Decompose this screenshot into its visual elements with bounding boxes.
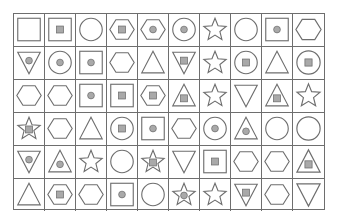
grid-cell-r6-c7 [200,179,231,211]
grid-cell-r6-c10 [293,179,324,211]
star-icon [200,179,230,211]
triangle-up-icon [262,47,292,79]
grid-cell-r3-c9 [262,80,293,113]
star-icon [200,80,230,112]
grid-cell-r1-c4 [107,14,138,47]
hexagon-icon [293,14,324,46]
grid-cell-r3-c6 [169,80,200,113]
grid-cell-r4-c4 [107,113,138,146]
grid-cell-r5-c1 [14,146,45,179]
hexagon-icon [14,80,44,112]
star-icon [200,47,230,79]
hexagon-with-dot-icon [138,14,168,46]
circle-icon [138,179,168,211]
grid-cell-r4-c1 [14,113,45,146]
star-with-square-icon [14,113,44,145]
triangle-down-icon [169,146,199,178]
circle-icon [107,146,137,178]
star-with-dot-icon [169,179,199,211]
grid-cell-r5-c5 [138,146,169,179]
hexagon-icon [231,146,261,178]
grid-cell-r3-c8 [231,80,262,113]
grid-cell-r1-c10 [293,14,324,47]
grid-cell-r1-c5 [138,14,169,47]
square-icon [14,14,44,46]
star-icon [76,146,106,178]
grid-cell-r5-c4 [107,146,138,179]
grid-cell-r1-c7 [200,14,231,47]
grid-cell-r6-c1 [14,179,45,211]
grid-cell-r4-c10 [293,113,324,146]
grid-cell-r6-c5 [138,179,169,211]
grid-cell-r5-c8 [231,146,262,179]
hexagon-icon [45,80,75,112]
grid-cell-r2-c7 [200,47,231,80]
grid-cell-r6-c3 [76,179,107,211]
grid-cell-r6-c4 [107,179,138,211]
circle-with-square-icon [107,113,137,145]
triangle-down-with-dot-icon [14,47,44,79]
square-with-square-icon [107,80,137,112]
hexagon-with-square-icon [107,14,137,46]
grid-cell-r3-c3 [76,80,107,113]
triangle-up-with-square-icon [293,146,324,178]
square-with-square-icon [200,146,230,178]
star-with-square-icon [138,146,168,178]
grid-cell-r4-c7 [200,113,231,146]
grid-cell-r6-c9 [262,179,293,211]
grid-cell-r4-c5 [138,113,169,146]
grid-cell-r3-c2 [45,80,76,113]
grid-cell-r2-c4 [107,47,138,80]
grid-cell-r5-c3 [76,146,107,179]
square-with-dot-icon [262,14,292,46]
triangle-up-icon [14,179,44,211]
triangle-down-with-square-icon [231,179,261,211]
grid-cell-r6-c2 [45,179,76,211]
grid-cell-r1-c6 [169,14,200,47]
grid-cell-r5-c7 [200,146,231,179]
triangle-down-icon [293,179,324,211]
grid-cell-r3-c7 [200,80,231,113]
hexagon-with-square-icon [138,80,168,112]
square-with-dot-icon [138,113,168,145]
grid-cell-r4-c9 [262,113,293,146]
hexagon-icon [169,113,199,145]
square-with-dot-icon [76,80,106,112]
grid-cell-r6-c8 [231,179,262,211]
circle-icon [76,14,106,46]
grid-cell-r2-c3 [76,47,107,80]
star-icon [293,80,324,112]
grid-cell-r2-c2 [45,47,76,80]
grid-cell-r3-c4 [107,80,138,113]
hexagon-icon [76,179,106,211]
hexagon-with-square-icon [45,179,75,211]
circle-with-dot-icon [45,47,75,79]
grid-cell-r1-c9 [262,14,293,47]
hexagon-icon [262,146,292,178]
grid-cell-r3-c10 [293,80,324,113]
circle-with-dot-icon [200,113,230,145]
grid-cell-r1-c3 [76,14,107,47]
square-with-square-icon [45,14,75,46]
triangle-up-with-dot-icon [45,146,75,178]
circle-with-square-icon [293,47,324,79]
grid-cell-r2-c1 [14,47,45,80]
grid-cell-r2-c8 [231,47,262,80]
grid-cell-r4-c6 [169,113,200,146]
grid-cell-r1-c8 [231,14,262,47]
grid-cell-r4-c8 [231,113,262,146]
square-with-dot-icon [76,47,106,79]
triangle-up-with-square-icon [169,80,199,112]
grid-cell-r5-c6 [169,146,200,179]
triangle-down-with-dot-icon [14,146,44,178]
grid-cell-r3-c5 [138,80,169,113]
grid-cell-r2-c6 [169,47,200,80]
triangle-down-with-square-icon [169,47,199,79]
circle-with-dot-icon [169,14,199,46]
triangle-up-icon [76,113,106,145]
grid-cell-r1-c1 [14,14,45,47]
circle-icon [262,113,292,145]
grid-cell-r5-c10 [293,146,324,179]
star-icon [200,14,230,46]
circle-icon [231,14,261,46]
